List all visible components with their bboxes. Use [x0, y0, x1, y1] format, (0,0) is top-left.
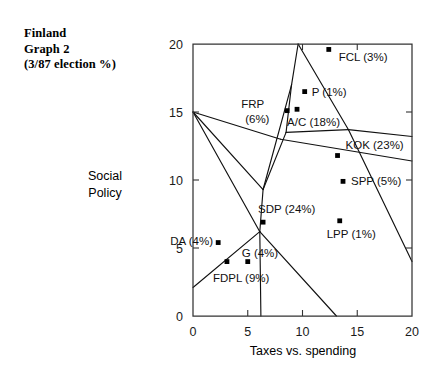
data-point-label: KOK (23%)	[346, 139, 404, 151]
region-boundary-line	[348, 130, 412, 137]
data-point-label: P (1%)	[312, 86, 347, 98]
y-tick-label: 15	[169, 106, 183, 120]
data-point-label: A/C (18%)	[287, 116, 340, 128]
region-boundary-line	[286, 130, 348, 133]
scatter-plot: 0510152005101520 FCL (3%)P (1%)FRP(6%)A/…	[0, 0, 441, 372]
data-point-marker[interactable]	[261, 220, 266, 225]
x-tick-label: 10	[296, 325, 310, 339]
data-point-marker[interactable]	[341, 179, 346, 184]
data-point-label: FCL (3%)	[339, 51, 388, 63]
data-point-label: SPP (5%)	[351, 175, 401, 187]
region-boundary-line	[263, 85, 291, 190]
region-boundary-line	[263, 132, 286, 189]
y-tick-label: 0	[176, 310, 183, 324]
x-tick-label: 20	[405, 325, 419, 339]
data-point-marker[interactable]	[216, 240, 221, 245]
region-boundary-line	[260, 232, 337, 316]
data-point-marker[interactable]	[335, 153, 340, 158]
data-point-marker[interactable]	[285, 108, 290, 113]
chart-root: Finland Graph 2 (3/87 election %) Social…	[0, 0, 441, 372]
y-tick-label: 20	[169, 38, 183, 52]
axis-tick-labels: 0510152005101520	[169, 38, 419, 339]
y-tick-label: 10	[169, 174, 183, 188]
data-point-label: FRP	[241, 98, 264, 110]
x-tick-label: 0	[190, 325, 197, 339]
data-point-marker[interactable]	[295, 107, 300, 112]
data-point-label: FDPL (9%)	[213, 272, 270, 284]
x-tick-label: 5	[244, 325, 251, 339]
data-point-label-second-line: (6%)	[245, 113, 269, 125]
data-point-marker[interactable]	[245, 259, 250, 264]
data-point-label: G (4%)	[242, 247, 279, 259]
data-point-marker[interactable]	[326, 47, 331, 52]
x-tick-label: 15	[350, 325, 364, 339]
data-point-marker[interactable]	[225, 259, 230, 264]
data-point-marker[interactable]	[337, 218, 342, 223]
region-boundary-line	[292, 44, 299, 85]
data-point-label: LPP (1%)	[327, 228, 376, 240]
data-points: FCL (3%)P (1%)FRP(6%)A/C (18%)KOK (23%)S…	[170, 47, 404, 284]
data-point-label: SDP (24%)	[258, 203, 315, 215]
data-point-label: DA (4%)	[170, 235, 213, 247]
data-point-marker[interactable]	[302, 89, 307, 94]
